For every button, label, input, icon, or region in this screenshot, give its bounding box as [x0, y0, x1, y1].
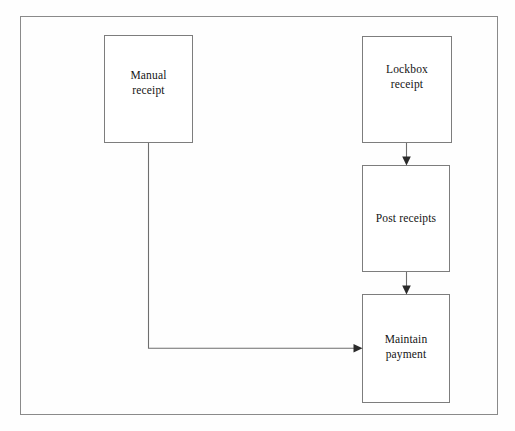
node-manual-receipt[interactable]: Manual receipt	[104, 35, 193, 143]
node-lockbox-receipt[interactable]: Lockbox receipt	[362, 36, 452, 143]
node-lockbox-receipt-label: Lockbox receipt	[386, 37, 428, 92]
node-maintain-payment-label: Maintain payment	[385, 332, 428, 362]
diagram-canvas: Manual receipt Lockbox receipt Post rece…	[0, 0, 515, 431]
node-post-receipts-label: Post receipts	[376, 211, 436, 226]
node-maintain-payment[interactable]: Maintain payment	[362, 294, 450, 403]
node-manual-receipt-label: Manual receipt	[130, 36, 166, 98]
node-post-receipts[interactable]: Post receipts	[362, 165, 450, 272]
